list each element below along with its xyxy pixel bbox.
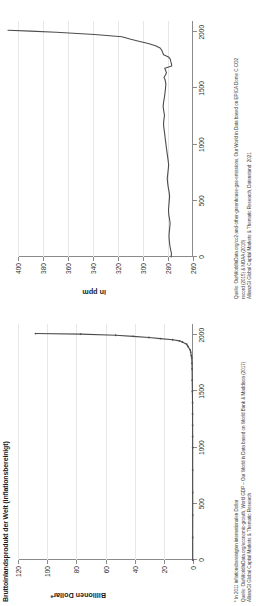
y-tick-label: 300 xyxy=(140,263,147,274)
y-tick-label: 0 xyxy=(190,566,197,570)
x-tick-label: 500 xyxy=(198,195,205,206)
y-axis-label-gdp: Billionen Dollar* xyxy=(50,591,106,600)
y-tick xyxy=(106,560,107,564)
figure-rotator: Bruttoinlandsprodukt der Welt (inflation… xyxy=(0,0,256,606)
x-tick-label: 2000 xyxy=(198,328,205,343)
plot-area-gdp: 0204060801001200500100015002000 xyxy=(18,324,193,560)
y-tick xyxy=(47,560,48,564)
panel-gdp: Bruttoinlandsprodukt der Welt (inflation… xyxy=(0,303,256,606)
y-tick-label: 340 xyxy=(90,263,97,274)
footnotes-co2: Quelle: OurWorldInData.org/co2-and-other… xyxy=(234,3,253,299)
y-tick xyxy=(18,560,19,564)
y-tick xyxy=(118,257,119,261)
y-tick-label: 40 xyxy=(131,566,138,573)
x-tick xyxy=(193,87,197,88)
x-tick xyxy=(193,503,197,504)
x-tick xyxy=(193,390,197,391)
y-tick-label: 360 xyxy=(65,263,72,274)
footnotes-gdp: * In 2011 inflationsbereinigten internat… xyxy=(234,306,253,602)
x-tick-label: 500 xyxy=(198,498,205,509)
y-tick-label: 60 xyxy=(102,566,109,573)
y-tick-label: 280 xyxy=(165,263,172,274)
y-tick-label: 400 xyxy=(15,263,22,274)
y-tick xyxy=(135,560,136,564)
x-tick xyxy=(193,200,197,201)
y-tick-label: 80 xyxy=(73,566,80,573)
x-tick xyxy=(193,144,197,145)
y-tick xyxy=(168,257,169,261)
x-tick-label: 1500 xyxy=(198,81,205,96)
y-tick xyxy=(193,257,194,261)
y-tick-label: 100 xyxy=(44,566,51,577)
y-tick xyxy=(164,560,165,564)
x-tick xyxy=(193,447,197,448)
chart-figure: Bruttoinlandsprodukt der Welt (inflation… xyxy=(0,0,256,606)
data-series-line xyxy=(18,21,193,257)
y-tick xyxy=(143,257,144,261)
footnote-gdp-2: AllianzGI Global Capital Markets & Thema… xyxy=(247,306,253,602)
y-tick-label: 20 xyxy=(160,566,167,573)
y-tick-label: 380 xyxy=(40,263,47,274)
y-tick xyxy=(76,560,77,564)
x-tick-label: 0 xyxy=(198,558,205,562)
panel-co2: 2602803003203403603804000500100015002000… xyxy=(0,0,256,303)
x-tick-label: 1000 xyxy=(198,440,205,455)
y-tick-label: 260 xyxy=(190,263,197,274)
data-series-line xyxy=(18,324,193,560)
panel-gdp-title: Bruttoinlandsprodukt der Welt (inflation… xyxy=(2,441,9,602)
x-tick xyxy=(193,256,197,257)
footnote-co2-2: AllianzGI Global Capital Markets & Thema… xyxy=(247,3,253,299)
x-tick-label: 0 xyxy=(198,255,205,259)
x-tick xyxy=(193,31,197,32)
x-tick xyxy=(193,334,197,335)
y-tick xyxy=(43,257,44,261)
plot-area-co2: 2602803003203403603804000500100015002000 xyxy=(18,21,193,257)
y-tick-label: 320 xyxy=(115,263,122,274)
x-tick-label: 1500 xyxy=(198,384,205,399)
y-tick-label: 120 xyxy=(15,566,22,577)
y-axis-label-co2: in ppm xyxy=(82,288,106,297)
y-tick xyxy=(68,257,69,261)
y-tick xyxy=(18,257,19,261)
x-tick-label: 1000 xyxy=(198,137,205,152)
x-tick-label: 2000 xyxy=(198,25,205,40)
y-tick xyxy=(93,257,94,261)
